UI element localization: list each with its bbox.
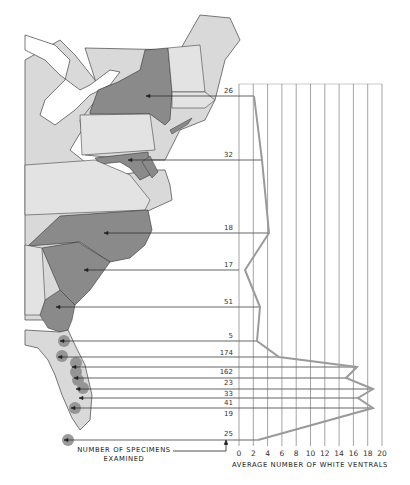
specimens-caption-line2: EXAMINED — [104, 455, 145, 463]
specimen-count: 26 — [224, 87, 233, 95]
specimen-count: 23 — [224, 379, 233, 387]
specimen-count-labels: 26 32 18 17 51 5 174 162 23 33 41 19 25 — [220, 87, 234, 438]
specimen-count: 41 — [224, 399, 233, 407]
svg-text:14: 14 — [334, 449, 344, 458]
svg-text:20: 20 — [377, 449, 387, 458]
svg-text:8: 8 — [294, 449, 299, 458]
specimen-count: 5 — [229, 332, 233, 340]
x-axis-ticks: 0 2 4 6 8 10 12 14 16 18 20 — [237, 449, 387, 458]
svg-text:16: 16 — [349, 449, 359, 458]
svg-text:0: 0 — [237, 449, 242, 458]
specimen-count: 19 — [224, 410, 233, 418]
specimens-arrow-icon — [173, 440, 228, 451]
map — [25, 15, 240, 446]
specimen-count: 51 — [224, 298, 233, 306]
specimen-count: 32 — [224, 151, 233, 159]
specimen-count: 33 — [224, 390, 233, 398]
specimen-count: 17 — [224, 261, 233, 269]
specimen-count: 25 — [224, 430, 233, 438]
figure: 26 32 18 17 51 5 174 162 23 33 41 19 25 … — [0, 0, 410, 485]
specimen-count: 162 — [220, 368, 233, 376]
x-axis-title: AVERAGE NUMBER OF WHITE VENTRALS — [232, 461, 388, 469]
chart-grid — [239, 84, 382, 446]
svg-text:2: 2 — [251, 449, 256, 458]
svg-text:18: 18 — [363, 449, 373, 458]
svg-text:10: 10 — [306, 449, 316, 458]
svg-text:12: 12 — [320, 449, 330, 458]
svg-text:4: 4 — [265, 449, 270, 458]
specimens-caption-line1: NUMBER OF SPECIMENS — [77, 446, 171, 454]
svg-text:6: 6 — [280, 449, 285, 458]
specimen-count: 174 — [220, 349, 234, 357]
specimen-count: 18 — [224, 224, 233, 232]
white-ventrals-line — [245, 96, 373, 440]
